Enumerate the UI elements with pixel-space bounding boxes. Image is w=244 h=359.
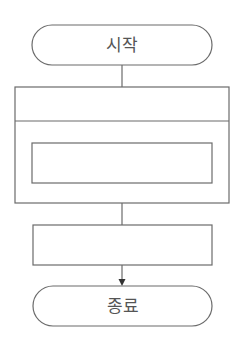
process-label: [33, 225, 212, 265]
start-label: 시작: [32, 25, 212, 65]
arrowhead-icon: [119, 279, 126, 286]
end-label: 종료: [33, 286, 212, 326]
loop-header-label: [15, 87, 229, 121]
inner-process-label: [32, 143, 212, 183]
